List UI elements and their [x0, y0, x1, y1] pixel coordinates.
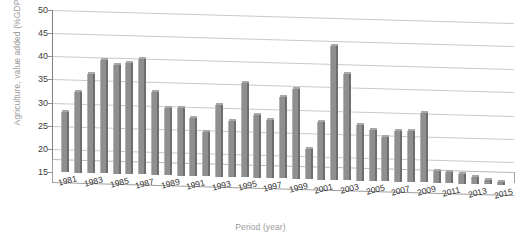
y-axis-title: Agriculture, value added (%GDP) — [12, 0, 22, 136]
y-axis-tick-label: 45 — [38, 28, 48, 38]
bar — [471, 177, 477, 184]
y-axis-tick-label: 15 — [38, 167, 48, 177]
x-axis-tick-label: 2003 — [339, 182, 360, 196]
bar — [177, 108, 183, 175]
y-axis-tick-label: 40 — [38, 51, 48, 61]
x-axis-tick-label: 1987 — [134, 176, 155, 190]
y-axis-tick-label: 20 — [38, 144, 48, 154]
bar — [484, 180, 490, 185]
bar — [305, 149, 311, 179]
bar — [74, 92, 80, 173]
plot-area: 1520253035404550 — [52, 10, 514, 172]
bar — [458, 174, 464, 183]
bar — [202, 132, 208, 176]
y-axis-tickmark — [48, 10, 53, 11]
floor-right-edge — [514, 172, 515, 183]
x-axis-title: Period (year) — [0, 222, 521, 232]
x-axis-tick-label: 2011 — [441, 185, 461, 199]
y-axis-tickmark — [48, 126, 53, 127]
bar — [433, 171, 439, 183]
y-axis-tickmark — [48, 103, 53, 104]
bar — [138, 59, 144, 175]
bar — [292, 89, 298, 179]
y-axis-tickmark — [48, 79, 53, 80]
bar — [369, 130, 375, 181]
bar — [497, 182, 503, 184]
x-axis-tick-label: 1981 — [57, 174, 78, 188]
bar — [420, 113, 426, 182]
x-axis-tick-label: 2005 — [365, 182, 386, 196]
x-axis-tick-label: 1991 — [185, 177, 206, 191]
y-axis-tickmark — [48, 33, 53, 34]
bar — [164, 108, 170, 175]
bar — [228, 121, 234, 177]
x-axis-tick-label: 1999 — [288, 180, 309, 194]
y-axis-line — [52, 10, 53, 172]
bar — [407, 131, 413, 182]
y-axis-tickmark — [48, 56, 53, 57]
x-axis-tick-label: 1995 — [237, 179, 258, 193]
bar — [330, 46, 336, 180]
bar — [113, 65, 119, 174]
x-axis-tick-label: 2015 — [493, 186, 514, 200]
bar — [356, 125, 362, 181]
gridline — [52, 10, 514, 24]
x-axis-tick-label: 2001 — [313, 181, 334, 195]
bar — [189, 118, 195, 176]
bar — [125, 63, 131, 174]
gridline — [52, 79, 514, 93]
bar — [253, 115, 259, 177]
y-axis-tick-label: 30 — [38, 98, 48, 108]
bar — [100, 60, 106, 173]
bar — [279, 97, 285, 178]
x-axis-tick-label: 2013 — [467, 185, 488, 199]
bar — [151, 92, 157, 175]
gridline — [52, 33, 514, 47]
x-axis-tick-label: 1985 — [109, 175, 130, 189]
gridline — [52, 56, 514, 70]
y-axis-tick-label: 35 — [38, 74, 48, 84]
floor-left-edge — [52, 159, 53, 182]
y-axis-tickmark — [48, 149, 53, 150]
bar-chart: Agriculture, value added (%GDP) 15202530… — [0, 0, 521, 245]
x-axis-tick-label: 2007 — [390, 183, 411, 197]
bar — [445, 172, 451, 184]
y-axis-tick-label: 25 — [38, 121, 48, 131]
x-axis-tick-label: 1993 — [211, 178, 232, 192]
x-axis-tick-label: 1983 — [83, 174, 104, 188]
x-axis-tick-label: 2009 — [416, 184, 437, 198]
bar — [241, 83, 247, 178]
bar — [394, 131, 400, 182]
bar — [343, 74, 349, 180]
bar — [266, 120, 272, 178]
bar — [215, 105, 221, 177]
y-axis-tickmark — [48, 172, 53, 173]
bar — [87, 74, 93, 174]
bar — [61, 112, 67, 172]
x-axis-tick-label: 1997 — [262, 180, 283, 194]
y-axis-tick-label: 50 — [38, 5, 48, 15]
bar — [381, 137, 387, 181]
x-axis-tick-label: 1989 — [160, 177, 181, 191]
bar — [317, 122, 323, 180]
